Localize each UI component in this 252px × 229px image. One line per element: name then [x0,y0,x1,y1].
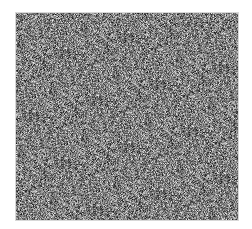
noise-texture-image [15,12,239,221]
noise-canvas [16,13,238,220]
